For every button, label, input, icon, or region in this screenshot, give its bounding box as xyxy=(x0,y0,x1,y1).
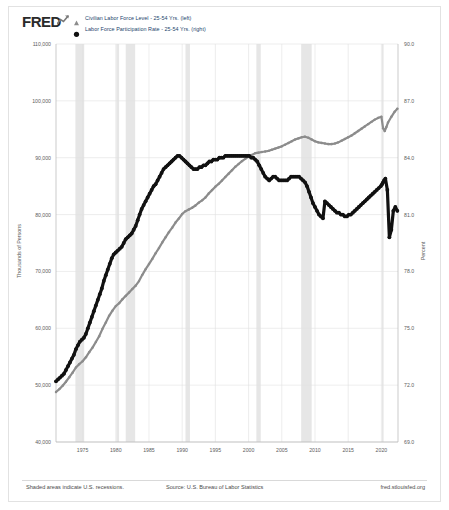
series-point xyxy=(294,138,296,140)
series-point xyxy=(314,140,316,142)
left-tick-label: 90,000 xyxy=(35,155,51,161)
series-point xyxy=(68,361,72,365)
series-point xyxy=(134,224,138,228)
series-point xyxy=(64,368,68,372)
series-point xyxy=(140,207,144,211)
left-tick-label: 70,000 xyxy=(35,268,51,274)
series-point xyxy=(201,199,203,201)
series-point xyxy=(303,180,307,184)
right-tick-label: 87.0 xyxy=(404,98,414,104)
series-point xyxy=(224,176,226,178)
series-point xyxy=(100,287,104,291)
x-tick-label: 2020 xyxy=(376,447,388,453)
series-point xyxy=(154,182,158,186)
right-tick-label: 84.0 xyxy=(404,155,414,161)
series-point xyxy=(337,141,339,143)
series-point xyxy=(184,210,186,212)
series-point xyxy=(125,295,127,297)
footer-divider xyxy=(22,480,427,481)
series-point xyxy=(395,209,399,213)
series-point xyxy=(389,228,393,232)
right-axis-title: Percent xyxy=(420,241,426,260)
series-point xyxy=(174,221,176,223)
fred-logo: FRED xyxy=(22,13,61,30)
series-point xyxy=(261,171,265,175)
series-point xyxy=(65,381,67,383)
series-point xyxy=(350,134,352,136)
series-point xyxy=(84,332,88,336)
series-point xyxy=(96,298,100,302)
series-point xyxy=(324,142,326,144)
series-point xyxy=(391,209,395,213)
legend-marker-triangle-icon xyxy=(72,14,81,23)
series-point xyxy=(132,228,136,232)
series-point xyxy=(227,172,229,174)
series-point xyxy=(347,136,349,138)
series-point xyxy=(261,151,263,153)
series-point xyxy=(191,207,193,209)
series-point xyxy=(297,137,299,139)
series-point xyxy=(76,343,80,347)
series-point xyxy=(171,226,173,228)
series-point xyxy=(158,175,162,179)
series-point xyxy=(334,142,336,144)
series-point xyxy=(75,366,77,368)
series-point xyxy=(154,252,156,254)
series-point xyxy=(136,218,140,222)
series-point xyxy=(320,142,322,144)
series-point xyxy=(354,132,356,134)
left-tick-label: 50,000 xyxy=(35,382,51,388)
series-point xyxy=(81,360,83,362)
series-point xyxy=(181,213,183,215)
series-point xyxy=(231,169,233,171)
chart-canvas: 1975198019851990199520002005201020152020… xyxy=(0,36,449,476)
series-point xyxy=(138,280,140,282)
series-point xyxy=(385,126,387,128)
series-point xyxy=(82,336,86,340)
series-point xyxy=(72,353,76,357)
left-tick-label: 110,000 xyxy=(33,41,51,47)
series-point xyxy=(55,391,57,393)
series-point xyxy=(385,188,389,192)
left-tick-label: 60,000 xyxy=(35,325,51,331)
series-point xyxy=(121,298,123,300)
series-point xyxy=(387,121,389,123)
series-point xyxy=(384,130,386,132)
series-point xyxy=(274,147,276,149)
series-point xyxy=(151,258,153,260)
series-point xyxy=(98,335,100,337)
legend-item-participation-rate: Labor Force Participation Rate - 25-54 Y… xyxy=(72,25,206,34)
series-point xyxy=(307,137,309,139)
right-tick-label: 81.0 xyxy=(404,212,414,218)
right-axis-tick-labels: 69.072.075.078.081.084.087.090.0 xyxy=(404,41,414,445)
recession-band-5 xyxy=(301,44,311,442)
series-point xyxy=(131,288,133,290)
series-point xyxy=(267,150,269,152)
series-point xyxy=(313,205,317,209)
recession-band-1 xyxy=(116,44,119,442)
recession-band-4 xyxy=(256,44,260,442)
series-point xyxy=(92,309,96,313)
series-point xyxy=(156,179,160,183)
x-tick-label: 1990 xyxy=(176,447,188,453)
chart-gridlines xyxy=(56,44,398,442)
series-point xyxy=(277,146,279,148)
chart-header: FRED Civilian Labor Force Level - 25-54 … xyxy=(0,0,449,40)
x-tick-label: 2010 xyxy=(309,447,321,453)
right-tick-label: 75.0 xyxy=(404,325,414,331)
series-point xyxy=(311,201,315,205)
series-point xyxy=(305,184,309,188)
series-point xyxy=(357,130,359,132)
series-point xyxy=(211,189,213,191)
x-tick-label: 2000 xyxy=(243,447,255,453)
right-tick-label: 69.0 xyxy=(404,439,414,445)
right-tick-label: 72.0 xyxy=(404,382,414,388)
series-point xyxy=(150,188,154,192)
left-tick-label: 40,000 xyxy=(35,439,51,445)
series-point xyxy=(344,138,346,140)
series-line-labor-force-level xyxy=(56,109,397,392)
series-point xyxy=(128,291,130,293)
series-point xyxy=(141,274,143,276)
left-tick-label: 80,000 xyxy=(35,212,51,218)
series-point xyxy=(61,385,63,387)
